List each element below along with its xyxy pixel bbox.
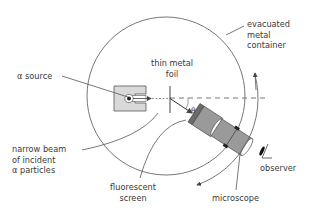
label-fluorescent-screen: fluorescent screen [104,182,162,203]
label-observer: observer [260,163,296,174]
label-narrow-beam: narrow beam of incident α particles [12,144,66,176]
label-alpha-source: α source [17,71,52,82]
container-circle [87,17,245,175]
label-microscope: microscope [212,193,259,204]
scattered-path-arrow [170,99,192,114]
rotation-arc-upper-head [255,73,256,90]
rutherford-scattering-diagram: evacuated metal container thin metal foi… [0,0,313,214]
container-leader [226,26,244,35]
microscope-leader [236,154,240,190]
beam-leader [82,113,158,150]
label-evacuated-metal-container: evacuated metal container [247,19,290,51]
microscope [187,103,255,159]
label-thin-metal-foil: thin metal foil [146,58,198,79]
screen-leader [140,120,186,178]
observer-eye-icon [258,144,272,158]
label-theta: θ [191,106,196,117]
theta-arc [186,98,188,109]
